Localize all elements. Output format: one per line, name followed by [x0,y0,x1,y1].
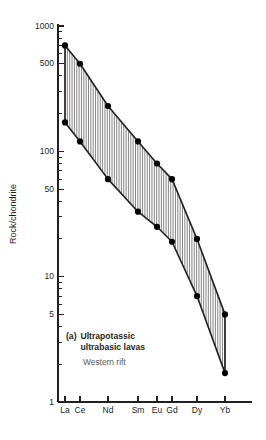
y-tick-label: 5 [49,309,54,319]
x-tick-label: La [60,405,70,415]
data-point-lower-ce [77,138,83,144]
data-point-lower-dy [194,293,200,299]
data-point-lower-sm [135,209,141,215]
data-point-lower-gd [169,239,175,245]
y-tick-label: 500 [40,58,54,68]
annotation-line1: Ultrapotassic [81,331,135,341]
y-tick-label: 50 [45,184,55,194]
x-tick-label: Sm [132,405,145,415]
y-tick-label: 10 [45,271,55,281]
chart-annotation: (a) Ultrapotassic ultrabasic lavas Weste… [66,331,196,367]
x-tick-label: Yb [220,405,231,415]
annotation-main: (a) Ultrapotassic ultrabasic lavas [66,331,196,352]
data-point-lower-eu [154,224,160,230]
chart-canvas: 1000500100501051LaCeNdSmEuGdDyYbRock/cho… [0,0,266,440]
data-point-upper-yb [222,311,228,317]
y-axis-title: Rock/chondrite [8,184,18,244]
data-point-lower-la [62,119,68,125]
x-tick-label: Gd [166,405,178,415]
annotation-title: Ultrapotassic ultrabasic lavas [81,331,146,352]
band-hatching [65,45,225,372]
x-tick-label: Ce [75,405,86,415]
data-point-upper-sm [135,138,141,144]
y-tick-label: 100 [40,146,54,156]
ree-chondrite-diagram: 1000500100501051LaCeNdSmEuGdDyYbRock/cho… [0,0,266,440]
x-tick-label: Nd [103,405,114,415]
x-tick-label: Dy [192,405,203,415]
data-point-upper-gd [169,176,175,182]
x-tick-label: Eu [152,405,163,415]
data-point-upper-nd [105,103,111,109]
data-point-upper-dy [194,236,200,242]
data-point-upper-la [62,42,68,48]
annotation-subtitle: Western rift [83,357,196,367]
data-point-lower-nd [105,176,111,182]
y-tick-label: 1000 [35,21,54,31]
annotation-line2: ultrabasic lavas [81,342,146,352]
data-point-lower-yb [222,370,228,376]
data-point-upper-ce [77,61,83,67]
panel-tag: (a) [66,331,77,342]
data-point-upper-eu [154,160,160,166]
y-tick-label: 1 [49,397,54,407]
